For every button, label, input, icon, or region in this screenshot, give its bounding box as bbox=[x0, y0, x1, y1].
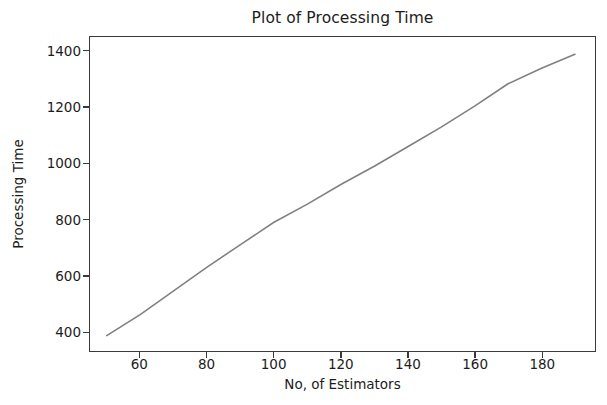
y-tick-label: 1200 bbox=[7, 100, 81, 114]
data-series-line bbox=[107, 54, 575, 335]
plot-area bbox=[89, 36, 596, 352]
x-tick-label: 160 bbox=[462, 356, 488, 372]
x-tick-label: 140 bbox=[395, 356, 421, 372]
x-tick-label: 60 bbox=[131, 356, 148, 372]
x-tick-label: 80 bbox=[198, 356, 215, 372]
x-tick-label: 180 bbox=[529, 356, 555, 372]
chart-title: Plot of Processing Time bbox=[89, 9, 596, 28]
x-axis-tick-labels: 6080100120140160180 bbox=[0, 356, 607, 376]
data-line-svg bbox=[90, 37, 595, 351]
x-tick-label: 100 bbox=[261, 356, 287, 372]
y-tick-label: 400 bbox=[7, 325, 81, 339]
x-axis-label: No, of Estimators bbox=[89, 376, 596, 393]
x-tick-label: 120 bbox=[328, 356, 354, 372]
y-axis-label: Processing Time bbox=[10, 114, 26, 274]
y-tick-label: 1400 bbox=[7, 44, 81, 58]
chart-figure: Plot of Processing Time 4006008001000120… bbox=[0, 0, 607, 405]
